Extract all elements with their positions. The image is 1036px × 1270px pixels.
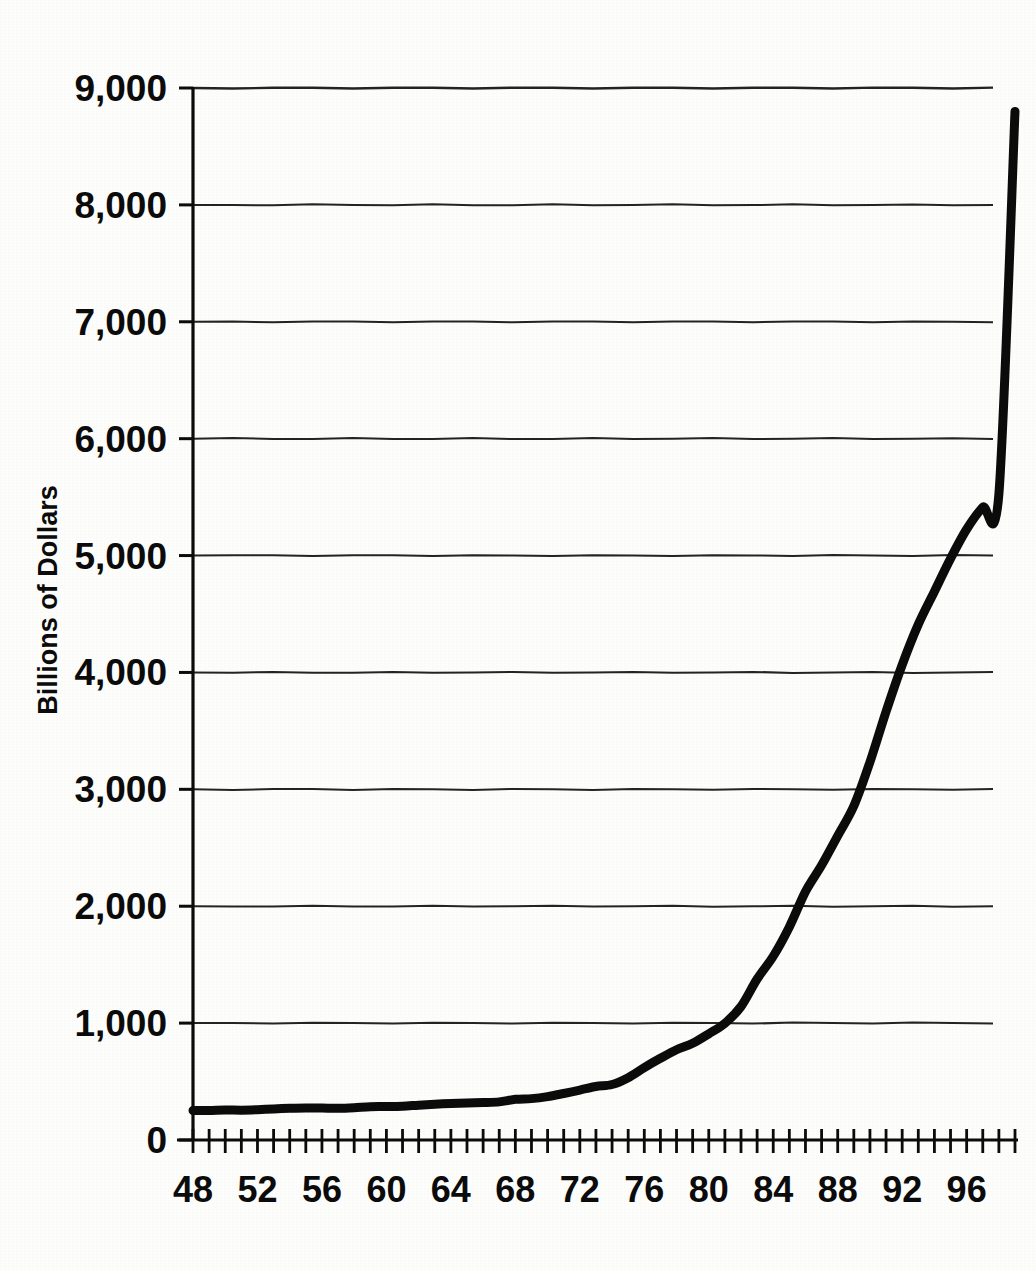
gridline xyxy=(193,204,993,205)
gridline xyxy=(193,321,993,322)
x-tick-label: 80 xyxy=(689,1169,729,1210)
y-tick-label: 0 xyxy=(146,1120,167,1161)
y-tick-label: 1,000 xyxy=(74,1003,167,1044)
series-line xyxy=(193,111,1015,1110)
gridlines xyxy=(193,88,993,1024)
x-tick-label: 68 xyxy=(495,1169,535,1210)
x-tick-label: 88 xyxy=(818,1169,858,1210)
y-axis-title-text: Billions of Dollars xyxy=(33,485,63,715)
gridline xyxy=(193,906,993,907)
gridline xyxy=(193,789,993,790)
line-chart: 01,0002,0003,0004,0005,0006,0007,0008,00… xyxy=(0,0,1036,1270)
y-tick-label: 7,000 xyxy=(74,302,167,343)
gridline xyxy=(193,555,993,556)
gridline xyxy=(193,438,993,439)
y-tick-label: 3,000 xyxy=(74,769,167,810)
y-tick-label: 2,000 xyxy=(74,886,167,927)
data-series xyxy=(193,111,1015,1110)
y-tick-label: 6,000 xyxy=(74,419,167,460)
y-tick-labels: 01,0002,0003,0004,0005,0006,0007,0008,00… xyxy=(74,68,167,1161)
y-tick-label: 4,000 xyxy=(74,652,167,693)
y-axis xyxy=(179,87,193,1140)
x-tick-label: 48 xyxy=(173,1169,213,1210)
x-tick-label: 60 xyxy=(366,1169,406,1210)
chart-page: 01,0002,0003,0004,0005,0006,0007,0008,00… xyxy=(0,0,1036,1270)
gridline xyxy=(193,88,993,89)
x-tick-label: 84 xyxy=(753,1169,793,1210)
x-tick-labels: 48525660646872768084889296 xyxy=(173,1169,987,1210)
x-axis xyxy=(177,1129,1018,1153)
y-tick-label: 5,000 xyxy=(74,536,167,577)
x-tick-label: 72 xyxy=(560,1169,600,1210)
gridline xyxy=(193,1023,993,1024)
x-tick-label: 64 xyxy=(431,1169,471,1210)
x-tick-label: 96 xyxy=(947,1169,987,1210)
gridline xyxy=(193,672,993,673)
y-axis-title: Billions of Dollars xyxy=(33,485,63,715)
x-tick-label: 52 xyxy=(237,1169,277,1210)
x-tick-label: 76 xyxy=(624,1169,664,1210)
y-tick-label: 8,000 xyxy=(74,185,167,226)
x-tick-label: 56 xyxy=(302,1169,342,1210)
x-tick-label: 92 xyxy=(882,1169,922,1210)
y-tick-label: 9,000 xyxy=(74,68,167,109)
